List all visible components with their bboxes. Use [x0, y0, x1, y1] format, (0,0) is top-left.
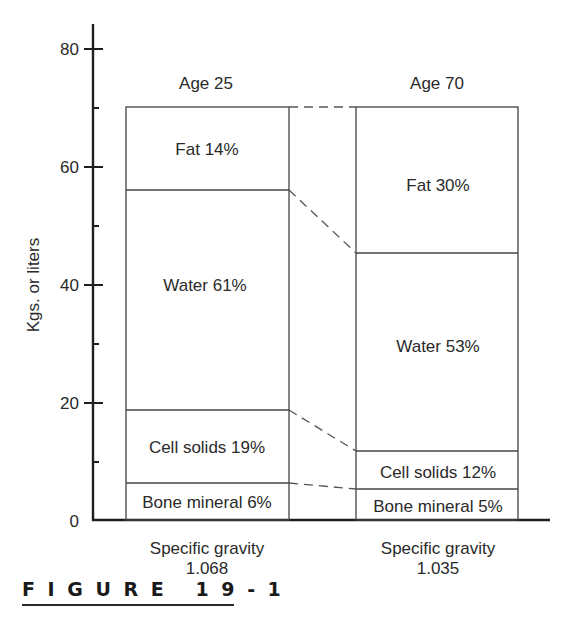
bar-age-25: [126, 107, 289, 520]
bar-header-age-70: Age 70: [410, 74, 464, 93]
figure-caption: FIGURE 19-1: [22, 578, 234, 606]
bar-header-age-25: Age 25: [179, 74, 233, 93]
y-tick-label-60: 60: [60, 158, 79, 177]
footer-label-age-70: Specific gravity: [381, 539, 496, 558]
segment-label-water: Water 61%: [163, 276, 246, 295]
y-axis-title: Kgs. or liters: [24, 238, 43, 332]
segment-label-water: Water 53%: [396, 337, 479, 356]
y-tick-label-40: 40: [60, 276, 79, 295]
body-composition-chart: 80 60 40 20 0 Kgs. or liters Age 25 Age …: [0, 0, 568, 619]
footer-value-age-25: 1.068: [186, 559, 229, 578]
footer-label-age-25: Specific gravity: [150, 539, 265, 558]
segment-label-fat: Fat 14%: [175, 140, 238, 159]
footer-value-age-70: 1.035: [417, 559, 460, 578]
segment-label-cell-solids: Cell solids 19%: [149, 438, 265, 457]
segment-label-cell-solids: Cell solids 12%: [380, 463, 496, 482]
segment-label-bone-mineral: Bone mineral 5%: [373, 497, 502, 516]
y-tick-label-80: 80: [60, 40, 79, 59]
y-axis: [84, 24, 103, 521]
bar-age-70: [356, 107, 518, 520]
segment-label-fat: Fat 30%: [406, 176, 469, 195]
segment-label-bone-mineral: Bone mineral 6%: [142, 493, 271, 512]
y-tick-label-20: 20: [60, 394, 79, 413]
dashed-connectors: [289, 107, 356, 489]
y-tick-label-0: 0: [70, 512, 79, 531]
